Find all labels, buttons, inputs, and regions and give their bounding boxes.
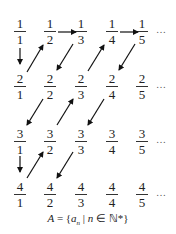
formula-close: } <box>123 212 128 224</box>
arrow-up-right-icon <box>27 152 43 178</box>
natural-numbers-set: ℕ* <box>109 212 124 224</box>
enumeration-arrows <box>0 0 176 234</box>
arrow-down-left-icon <box>27 99 43 125</box>
arrow-up-right-icon <box>57 99 73 125</box>
formula-bar: | <box>80 212 88 224</box>
arrow-up-right-icon <box>27 45 43 72</box>
element-of: ∈ <box>93 212 109 224</box>
formula-equals: = { <box>54 212 71 224</box>
arrow-down-left-icon <box>88 99 104 125</box>
set-formula: A = {an | n ∈ ℕ*} <box>0 212 176 227</box>
arrow-down-left-icon <box>57 44 73 70</box>
arrow-down-left-icon <box>57 152 73 178</box>
arrow-down-left-icon <box>119 44 135 70</box>
arrow-up-right-icon <box>88 45 104 71</box>
